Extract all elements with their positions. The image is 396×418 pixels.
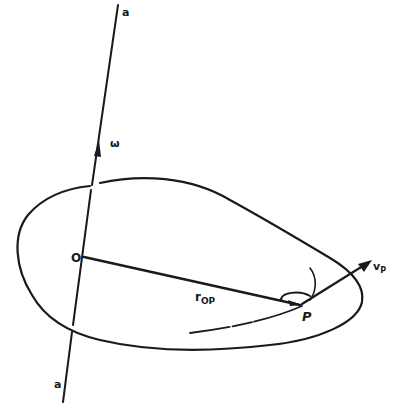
position-vector xyxy=(84,257,300,305)
origin-label: O xyxy=(71,251,81,265)
position-vector-label: rOP xyxy=(195,290,216,306)
rotation-axis-lower xyxy=(63,332,72,402)
rigid-body-rotation-diagram: a a ω O rOP P vP xyxy=(0,0,396,418)
velocity-label: vP xyxy=(373,260,386,275)
velocity-arrowhead xyxy=(358,260,372,272)
point-P-label: P xyxy=(302,309,312,324)
rotation-axis-upper xyxy=(92,5,118,185)
position-vector-subscript: OP xyxy=(201,296,216,306)
velocity-subscript: P xyxy=(380,266,386,275)
angle-arc xyxy=(281,293,310,301)
point-P-marker xyxy=(288,300,302,306)
axis-bottom-label: a xyxy=(54,378,61,391)
omega-label: ω xyxy=(110,137,120,150)
path-of-P xyxy=(190,306,302,333)
axis-top-label: a xyxy=(122,6,129,19)
